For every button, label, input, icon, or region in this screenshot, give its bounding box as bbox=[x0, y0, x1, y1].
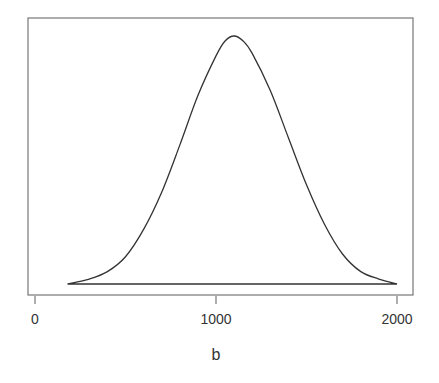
x-tick-label: 1000 bbox=[200, 311, 231, 327]
x-tick-label: 2000 bbox=[381, 311, 412, 327]
plot-frame bbox=[28, 18, 413, 295]
x-axis: 010002000 bbox=[31, 296, 413, 327]
chart: 010002000 b bbox=[0, 0, 439, 383]
x-axis-label: b bbox=[212, 346, 221, 363]
density-curve bbox=[68, 36, 397, 284]
x-tick-label: 0 bbox=[31, 311, 39, 327]
